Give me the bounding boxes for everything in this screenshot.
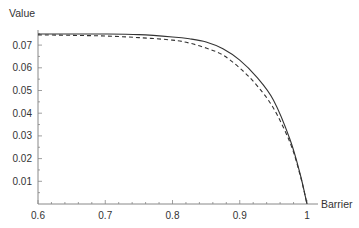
series-line-dashed [38, 35, 307, 204]
axes [38, 30, 318, 204]
y-tick-label: 0.04 [13, 108, 33, 119]
x-tick-label: 0.9 [233, 210, 247, 221]
series-group [38, 34, 307, 204]
y-axis-label: Value [9, 7, 35, 19]
y-tick-label: 0.05 [13, 85, 33, 96]
series-line-solid [38, 34, 307, 204]
x-tick-label: 0.7 [98, 210, 112, 221]
y-tick-label: 0.01 [13, 176, 33, 187]
y-tick-label: 0.06 [13, 62, 33, 73]
y-tick-label: 0.03 [13, 130, 33, 141]
x-tick-label: 0.6 [31, 210, 45, 221]
x-axis-label: Barrier [321, 198, 353, 210]
x-tick-label: 0.8 [166, 210, 180, 221]
ticks: 0.60.70.80.910.010.020.030.040.050.060.0… [13, 34, 311, 221]
x-tick-label: 1 [304, 210, 310, 221]
y-tick-label: 0.02 [13, 153, 33, 164]
line-chart: 0.60.70.80.910.010.020.030.040.050.060.0… [0, 0, 359, 228]
y-tick-label: 0.07 [13, 40, 33, 51]
chart-canvas: 0.60.70.80.910.010.020.030.040.050.060.0… [0, 0, 359, 228]
